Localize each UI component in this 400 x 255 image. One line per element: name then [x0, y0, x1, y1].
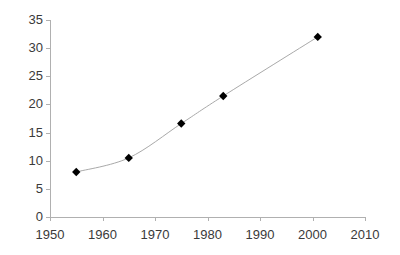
y-tick-label: 15: [29, 126, 43, 139]
x-tick-label: 2000: [283, 228, 343, 241]
y-tick-label: 20: [29, 97, 43, 110]
x-tick-label: 1970: [125, 228, 185, 241]
x-tick-label: 1960: [73, 228, 133, 241]
y-tick-label: 10: [29, 154, 43, 167]
x-tick-label: 1990: [230, 228, 290, 241]
y-tick-label: 35: [29, 13, 43, 26]
x-tick-label: 1950: [20, 228, 80, 241]
y-tick-label: 30: [29, 41, 43, 54]
line-chart: 05101520253035 1950196019701980199020002…: [0, 0, 400, 255]
data-point-marker: [177, 119, 185, 127]
x-tick-label: 1980: [178, 228, 238, 241]
data-point-marker: [125, 154, 133, 162]
y-tick-label: 0: [36, 210, 43, 223]
plot-area: [0, 0, 400, 255]
data-point-marker: [219, 92, 227, 100]
tick-marks: [46, 21, 366, 222]
data-point-marker: [314, 33, 322, 41]
series-line: [76, 37, 318, 172]
data-point-marker: [72, 168, 80, 176]
data-point-markers: [72, 33, 322, 176]
y-tick-label: 25: [29, 69, 43, 82]
y-tick-label: 5: [36, 182, 43, 195]
x-tick-label: 2010: [335, 228, 395, 241]
axis-group: [50, 20, 365, 218]
